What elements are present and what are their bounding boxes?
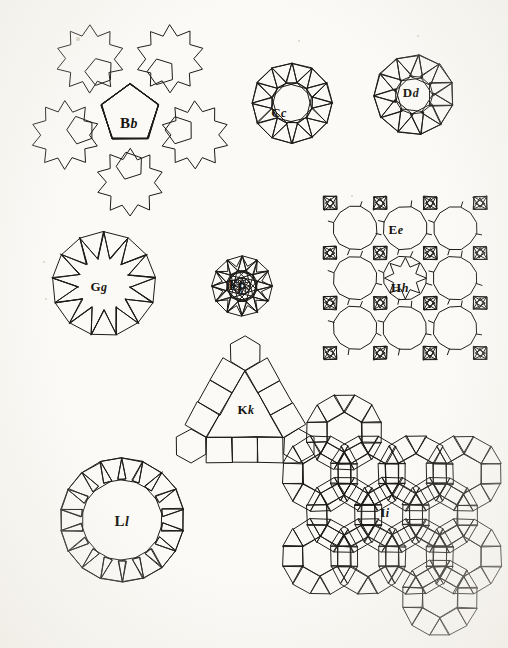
figure-label-ll: Ll <box>115 513 130 530</box>
tiling-square <box>433 463 454 484</box>
tiling-square <box>410 505 430 526</box>
tiling-square <box>403 505 423 526</box>
label-lowercase: i <box>386 506 390 520</box>
gap-pentagon <box>165 117 191 144</box>
edge-square <box>258 437 284 463</box>
edge-square <box>198 381 232 416</box>
web-edge <box>98 232 104 259</box>
tiling-square <box>361 505 382 526</box>
tiling-hexagon <box>422 495 457 535</box>
link <box>398 349 399 355</box>
star-edge <box>104 310 117 335</box>
tiling-square <box>436 566 464 594</box>
grid-octagon <box>334 206 377 249</box>
ring-square <box>145 473 176 503</box>
tiling-triangle <box>481 483 501 501</box>
link <box>476 283 482 285</box>
figure-label-hh: Hh <box>391 280 409 296</box>
tiling-triangle <box>403 571 423 588</box>
tiling-triangle <box>458 487 478 505</box>
tiling-triangle <box>457 570 477 588</box>
link <box>429 221 434 223</box>
label-lowercase: g <box>101 280 107 294</box>
ring-triangle <box>272 68 286 88</box>
tiling-square <box>426 546 446 566</box>
gap-pentagon <box>67 117 92 144</box>
ring-square <box>101 557 127 582</box>
tiling-hexagon <box>398 453 433 493</box>
label-capital: B <box>120 115 131 131</box>
tiling-triangle <box>410 488 429 505</box>
star-rosette <box>98 149 163 216</box>
tiling-square <box>457 587 477 608</box>
figure-label-gg: Gg <box>90 279 107 295</box>
tiling-triangle <box>406 519 427 536</box>
label-lowercase: f <box>238 278 243 293</box>
tiling-triangle <box>358 576 378 594</box>
tiling-hexagon <box>422 578 457 618</box>
label-lowercase: b <box>131 116 138 131</box>
edge-square <box>245 358 280 393</box>
tiling-triangle <box>405 436 426 453</box>
tiling-triangle <box>457 607 477 625</box>
link <box>426 283 432 285</box>
tiling-square <box>293 519 320 547</box>
tiling-square <box>338 546 358 566</box>
tiling-square <box>464 437 491 464</box>
gap-pentagon <box>116 152 141 179</box>
figure-label-kk: Kk <box>237 402 254 418</box>
tiling-triangle <box>361 405 381 423</box>
ring-square <box>68 472 99 503</box>
grid-octagon <box>383 307 426 350</box>
tiling-triangle <box>361 442 381 459</box>
label-capital: G <box>90 279 101 294</box>
paper-speck <box>351 195 353 197</box>
rosette-triangle <box>253 271 268 282</box>
star-edge <box>53 278 79 287</box>
tiling-square <box>338 464 357 484</box>
label-capital: C <box>271 105 281 120</box>
link <box>448 300 450 304</box>
figure-label-ff: Ff <box>229 277 244 294</box>
link <box>328 271 333 273</box>
edge-square <box>232 437 258 463</box>
figure-label-cc: Cc <box>271 105 287 121</box>
tiling-triangle <box>283 529 303 547</box>
figure-ii <box>302 425 482 605</box>
label-lowercase: c <box>281 106 287 120</box>
label-capital: L <box>115 513 126 529</box>
link <box>328 221 333 222</box>
link <box>348 300 350 305</box>
star-edge <box>130 278 155 287</box>
label-capital: F <box>229 277 239 293</box>
tiling-square <box>440 607 467 635</box>
rosette-triangle <box>257 282 273 291</box>
tiling-triangle <box>307 442 326 460</box>
tiling-square <box>293 566 320 594</box>
ring-triangle <box>312 98 332 109</box>
gap-wedge <box>83 473 99 492</box>
tiling-square <box>385 463 405 483</box>
link <box>377 333 381 335</box>
link <box>360 202 362 207</box>
figure-cc <box>227 33 357 173</box>
ring-square <box>257 68 287 97</box>
grid-octagon <box>334 257 377 300</box>
link <box>360 302 362 307</box>
link <box>376 283 381 284</box>
tiling-square <box>320 519 348 546</box>
ring-square <box>69 537 99 567</box>
label-capital: K <box>237 402 248 417</box>
tiling-square <box>283 546 303 567</box>
link <box>398 249 399 254</box>
link <box>429 271 434 272</box>
tiling-triangle <box>430 618 450 635</box>
tiling-triangle <box>307 525 327 543</box>
tiling-square <box>378 464 399 484</box>
figure-label-bb: Bb <box>120 115 138 132</box>
label-capital: H <box>391 280 402 295</box>
grid-octagon <box>334 306 377 349</box>
star-rosette <box>137 25 203 93</box>
star-edge <box>61 254 80 274</box>
tiling-triangle <box>454 437 474 455</box>
